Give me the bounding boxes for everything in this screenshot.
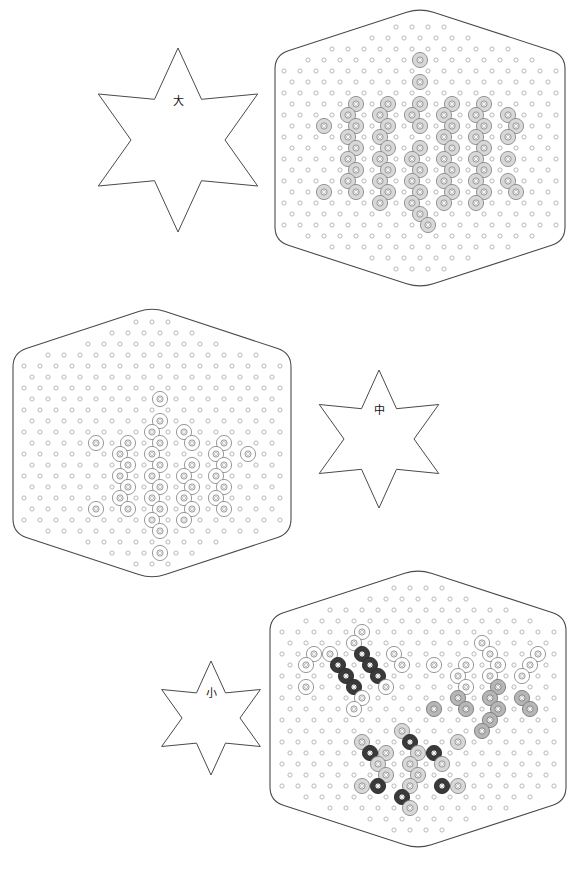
bead-white[interactable] bbox=[176, 512, 191, 527]
bead-hole bbox=[383, 750, 389, 756]
bead-light[interactable] bbox=[436, 195, 451, 210]
bead-white[interactable] bbox=[152, 545, 167, 560]
bead-white[interactable] bbox=[152, 391, 167, 406]
bead-hole bbox=[359, 739, 365, 745]
bead-hole bbox=[441, 112, 447, 118]
bead-light[interactable] bbox=[500, 151, 515, 166]
bead-gray[interactable] bbox=[474, 723, 489, 738]
bead-hole bbox=[353, 167, 359, 173]
bead-light[interactable] bbox=[316, 184, 331, 199]
bead-hole bbox=[213, 473, 219, 479]
bead-hole bbox=[479, 640, 485, 646]
bead-hole bbox=[351, 706, 357, 712]
bead-hole bbox=[417, 167, 423, 173]
star-small-label: 小 bbox=[206, 687, 217, 700]
bead-hole bbox=[311, 651, 317, 657]
bead-hole bbox=[157, 506, 163, 512]
bead-hole bbox=[377, 200, 383, 206]
bead-hole bbox=[359, 629, 365, 635]
board-small-bottom-right-outline bbox=[270, 571, 566, 847]
bead-hole bbox=[351, 640, 357, 646]
bead-hole bbox=[431, 706, 437, 712]
bead-hole bbox=[431, 750, 437, 756]
bead-hole bbox=[321, 189, 327, 195]
bead-gray[interactable] bbox=[522, 701, 537, 716]
bead-hole bbox=[455, 783, 461, 789]
bead-hole bbox=[535, 651, 541, 657]
bead-hole bbox=[157, 418, 163, 424]
bead-light[interactable] bbox=[372, 195, 387, 210]
pattern-canvas: 大中小 bbox=[0, 0, 579, 879]
bead-gray[interactable] bbox=[458, 701, 473, 716]
bead-hole bbox=[385, 145, 391, 151]
bead-hole bbox=[377, 156, 383, 162]
bead-hole bbox=[417, 145, 423, 151]
bead-light[interactable] bbox=[412, 52, 427, 67]
bead-hole bbox=[481, 167, 487, 173]
bead-hole bbox=[375, 673, 381, 679]
bead-hole bbox=[117, 495, 123, 501]
bead-hole bbox=[399, 662, 405, 668]
bead-hole bbox=[473, 112, 479, 118]
bead-hole bbox=[221, 506, 227, 512]
bead-hole bbox=[415, 750, 421, 756]
bead-light[interactable] bbox=[500, 129, 515, 144]
bead-dark[interactable] bbox=[434, 778, 449, 793]
bead-hole bbox=[481, 189, 487, 195]
bead-hole bbox=[439, 761, 445, 767]
bead-hole bbox=[449, 123, 455, 129]
bead-white[interactable] bbox=[88, 435, 103, 450]
bead-white[interactable] bbox=[152, 523, 167, 538]
bead-light[interactable] bbox=[354, 778, 369, 793]
bead-hole bbox=[385, 167, 391, 173]
bead-gray[interactable] bbox=[426, 701, 441, 716]
bead-white[interactable] bbox=[240, 446, 255, 461]
bead-dark[interactable] bbox=[370, 778, 385, 793]
bead-white[interactable] bbox=[394, 657, 409, 672]
bead-hole bbox=[505, 134, 511, 140]
bead-hole bbox=[481, 145, 487, 151]
bead-light[interactable] bbox=[468, 195, 483, 210]
bead-hole bbox=[473, 178, 479, 184]
bead-light[interactable] bbox=[412, 74, 427, 89]
bead-white[interactable] bbox=[298, 657, 313, 672]
star-large-label: 大 bbox=[173, 94, 184, 108]
bead-hole bbox=[125, 440, 131, 446]
bead-light[interactable] bbox=[450, 734, 465, 749]
bead-hole bbox=[417, 57, 423, 63]
bead-white[interactable] bbox=[514, 668, 529, 683]
bead-white[interactable] bbox=[378, 679, 393, 694]
bead-white[interactable] bbox=[184, 435, 199, 450]
bead-hole bbox=[189, 462, 195, 468]
bead-hole bbox=[213, 495, 219, 501]
bead-hole bbox=[149, 451, 155, 457]
bead-hole bbox=[449, 167, 455, 173]
bead-white[interactable] bbox=[426, 657, 441, 672]
bead-light[interactable] bbox=[420, 217, 435, 232]
bead-hole bbox=[377, 112, 383, 118]
bead-hole bbox=[473, 156, 479, 162]
bead-white[interactable] bbox=[120, 501, 135, 516]
bead-light[interactable] bbox=[348, 184, 363, 199]
bead-white[interactable] bbox=[216, 501, 231, 516]
bead-white[interactable] bbox=[88, 501, 103, 516]
bead-hole bbox=[431, 662, 437, 668]
bead-light[interactable] bbox=[316, 118, 331, 133]
bead-light[interactable] bbox=[412, 118, 427, 133]
pattern-sheet: 大中小 bbox=[0, 0, 579, 879]
bead-white[interactable] bbox=[298, 679, 313, 694]
bead-light[interactable] bbox=[402, 800, 417, 815]
bead-hole bbox=[335, 662, 341, 668]
bead-hole bbox=[377, 178, 383, 184]
bead-light[interactable] bbox=[450, 778, 465, 793]
bead-hole bbox=[353, 145, 359, 151]
bead-hole bbox=[345, 156, 351, 162]
bead-hole bbox=[505, 178, 511, 184]
bead-white[interactable] bbox=[346, 701, 361, 716]
bead-hole bbox=[245, 451, 251, 457]
bead-light[interactable] bbox=[508, 184, 523, 199]
bead-hole bbox=[441, 134, 447, 140]
bead-light[interactable] bbox=[434, 756, 449, 771]
bead-hole bbox=[157, 440, 163, 446]
bead-hole bbox=[189, 484, 195, 490]
